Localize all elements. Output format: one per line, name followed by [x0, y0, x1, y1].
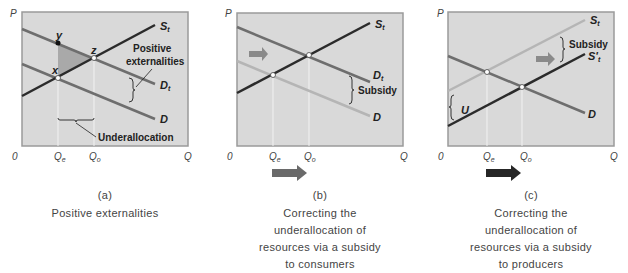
underallocation-label: Underallocation — [98, 132, 174, 143]
caption-line: to producers — [438, 256, 624, 273]
subsidy-label: Subsidy — [569, 39, 608, 50]
tick-qo: Qo — [520, 151, 532, 163]
tick-qo: Qo — [89, 151, 101, 163]
point-y — [56, 41, 61, 46]
origin-label: 0 — [438, 151, 444, 162]
label-d: D — [160, 113, 168, 125]
caption-line: Correcting the — [438, 205, 624, 222]
x-axis-label-q: Q — [184, 151, 192, 162]
caption-letter: (c) — [438, 187, 624, 204]
y-axis-label-p: P — [437, 8, 444, 19]
tick-qe: Qe — [483, 151, 495, 163]
caption-a: (a) Positive externalities — [22, 187, 188, 222]
caption-letter: (b) — [227, 187, 413, 204]
caption-line: resources via a subsidy — [438, 239, 624, 256]
graph-a: y x z St Dt D Positive externalities Und… — [0, 0, 210, 160]
label-d: D — [373, 111, 381, 123]
positive-externalities-label-line1: Positive — [133, 43, 172, 54]
caption-letter: (a) — [22, 187, 188, 204]
panel-c-subsidy-to-producers: Subsidy U St S't D P 0 Qe Qo Q (c) Corre… — [420, 0, 628, 269]
tick-qe: Qe — [269, 151, 281, 163]
y-axis-label-p: P — [225, 8, 232, 19]
origin-label: 0 — [227, 151, 233, 162]
equilibrium-point-o — [307, 53, 312, 58]
panel-b-subsidy-to-consumers: Subsidy St Dt D P 0 Qe Qo Q (b) Correcti… — [215, 0, 420, 269]
origin-label: 0 — [12, 151, 18, 162]
tick-qo: Qo — [304, 151, 316, 163]
tick-qe: Qe — [54, 151, 66, 163]
caption-line: to consumers — [227, 256, 413, 273]
panel-a-positive-externalities: y x z St Dt D Positive externalities Und… — [0, 0, 210, 269]
graph-b: Subsidy St Dt D P 0 Qe Qo Q — [215, 0, 420, 190]
caption-c: (c) Correcting the underallocation of re… — [438, 187, 624, 273]
caption-line: underallocation of — [227, 222, 413, 239]
caption-line: underallocation of — [438, 222, 624, 239]
label-y: y — [55, 29, 63, 41]
caption-line: Correcting the — [227, 205, 413, 222]
x-axis-label-q: Q — [400, 151, 408, 162]
caption-line: resources via a subsidy — [227, 239, 413, 256]
equilibrium-point-e — [485, 70, 490, 75]
caption-line: Positive externalities — [52, 207, 159, 219]
point-z — [92, 56, 97, 61]
equilibrium-point-o — [520, 85, 525, 90]
label-d: D — [588, 108, 596, 120]
point-x — [56, 76, 61, 81]
quantity-increase-arrow-icon — [486, 165, 521, 181]
positive-externalities-label-line2: externalities — [126, 56, 185, 67]
label-z: z — [90, 44, 97, 56]
label-u: U — [461, 104, 470, 116]
graph-c: Subsidy U St S't D P 0 Qe Qo Q — [420, 0, 628, 190]
y-axis-label-p: P — [10, 8, 17, 19]
quantity-increase-arrow-icon — [272, 165, 307, 181]
x-axis-label-q: Q — [610, 151, 618, 162]
caption-b: (b) Correcting the underallocation of re… — [227, 187, 413, 273]
subsidy-label: Subsidy — [358, 85, 397, 96]
equilibrium-point-e — [271, 73, 276, 78]
label-x: x — [51, 64, 59, 76]
